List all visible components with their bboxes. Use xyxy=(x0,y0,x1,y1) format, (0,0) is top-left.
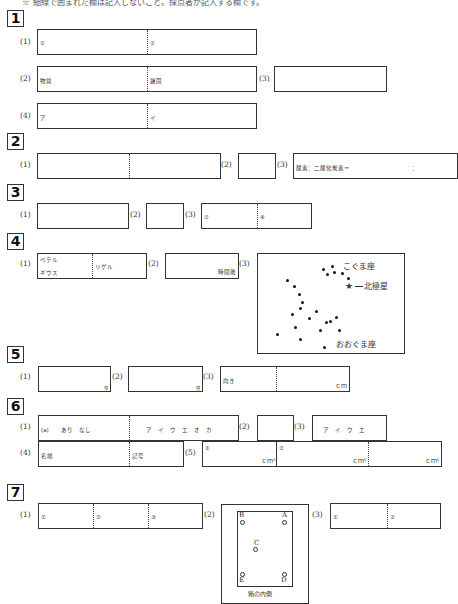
s2-q1-answer-box[interactable] xyxy=(37,153,221,179)
s6-q4-label: (4) xyxy=(20,448,31,457)
s1-q4-cell-2[interactable]: イ xyxy=(147,104,256,128)
little-dipper-label: こぐま座 xyxy=(343,260,375,271)
s6-q5-answer-box[interactable]: ① ｃｍ³ ② ｃｍ³ ｃｍ³ xyxy=(202,441,442,467)
point-b-marker[interactable] xyxy=(240,520,245,525)
s7-q1-answer-box[interactable]: ① ② ③ xyxy=(38,503,203,529)
s6-q1-cell-2[interactable]: ア イ ウ エ オ カ xyxy=(129,416,238,440)
star-dot xyxy=(299,307,302,310)
star-dot xyxy=(338,329,341,332)
s4-q2-hours-later-label: 時間後 xyxy=(218,268,236,276)
s2-q2-label: (2) xyxy=(221,160,232,169)
s7-q1-cell-3[interactable]: ③ xyxy=(148,504,202,528)
big-dipper-label: おおぐま座 xyxy=(336,338,376,349)
s6-q5-cell-2[interactable]: ② ｃｍ³ xyxy=(276,442,368,466)
s3-q3-label: (3) xyxy=(185,210,196,219)
point-c-marker[interactable] xyxy=(253,547,258,552)
section-3-badge: 3 xyxy=(7,184,24,201)
s4-q2-label: (2) xyxy=(148,259,159,268)
star-dot xyxy=(329,320,332,323)
point-a-marker[interactable] xyxy=(282,520,287,525)
s5-q1-answer-box[interactable]: g xyxy=(38,366,111,392)
s7-q1-cell-2[interactable]: ② xyxy=(93,504,148,528)
s2-q3-label: (3) xyxy=(277,160,288,169)
s7-q3-cell-2-label: ② xyxy=(390,514,395,520)
star-dot xyxy=(286,279,289,282)
s1-q2-cell-2[interactable]: 鎌固 xyxy=(147,67,256,91)
section-7-badge: 7 xyxy=(7,484,24,501)
s1-q3-answer-box[interactable] xyxy=(274,66,387,92)
s5-q2-answer-box[interactable]: g xyxy=(128,366,203,392)
s6-q5-cell-3[interactable]: ｃｍ³ xyxy=(368,442,441,466)
s5-q3-cell-distance[interactable]: ｃｍ xyxy=(276,367,349,391)
s3-q1-answer-box[interactable] xyxy=(37,203,129,229)
s6-q3-answer-box[interactable]: ア イ ウ エ xyxy=(312,415,387,441)
s7-q2-box-figure[interactable]: B A C E D 箱の内側 xyxy=(221,504,309,604)
point-a-label: A xyxy=(282,511,287,519)
star-dot xyxy=(341,272,344,275)
s2-q3-ratio-label: 酸素：二酸化炭素＝ xyxy=(296,164,350,172)
s4-q2-answer-box[interactable]: 時間後 xyxy=(165,253,239,279)
s4-q1-rigel-label: リゲル xyxy=(95,263,113,271)
s7-q3-cell-2[interactable]: ② xyxy=(387,504,440,528)
s1-q1-cell-2[interactable]: ② xyxy=(147,30,256,54)
s7-q3-cell-1-label: ① xyxy=(333,514,338,520)
box-inside-caption: 箱の内側 xyxy=(248,589,272,598)
s6-q4-cell-symbol[interactable]: 記号 xyxy=(129,442,183,466)
s2-q1-cell-2[interactable] xyxy=(129,154,220,178)
s6-q2-answer-box[interactable] xyxy=(257,415,294,441)
section-6-badge: 6 xyxy=(7,398,24,415)
s7-q1-cell-1-label: ① xyxy=(41,514,46,520)
star-dot xyxy=(335,316,338,319)
s6-q4-name-label: 名前 xyxy=(41,452,53,460)
s5-q1-label: (1) xyxy=(20,372,31,381)
s3-q3-cell-2-label: ④ xyxy=(260,214,265,220)
s6-q5-cell-1-unit: ｃｍ³ xyxy=(261,456,275,465)
s4-q1-answer-box[interactable]: ベテル ギウス リゲル xyxy=(37,253,147,279)
s5-q2-label: (2) xyxy=(112,372,123,381)
s1-q1-label: (1) xyxy=(20,37,31,46)
s1-q4-answer-box[interactable]: ア イ xyxy=(37,103,257,129)
s1-q2-answer-box[interactable]: 物質 鎌固 xyxy=(37,66,257,92)
s7-q3-label: (3) xyxy=(312,510,323,519)
s6-q5-cell-2-unit: ｃｍ³ xyxy=(352,456,366,465)
point-b-label: B xyxy=(239,511,244,519)
point-e-label: E xyxy=(239,576,244,584)
s6-q5-cell-1-label: ① xyxy=(205,445,210,451)
s4-q1-label: (1) xyxy=(20,259,31,268)
star-dot xyxy=(298,293,301,296)
s4-q1-betelgeuse-line1: ベテル xyxy=(40,256,58,264)
star-dot xyxy=(301,301,304,304)
s3-q2-label: (2) xyxy=(130,210,141,219)
star-dot xyxy=(325,321,328,324)
s7-q3-answer-box[interactable]: ① ② xyxy=(330,503,441,529)
s6-q4-answer-box[interactable]: 名前 記号 xyxy=(38,441,184,467)
s1-q4-label: (4) xyxy=(20,111,31,120)
s2-q2-answer-box[interactable] xyxy=(238,153,276,179)
s4-q1-cell-rigel[interactable]: リゲル xyxy=(92,254,146,278)
star-dot xyxy=(322,268,325,271)
star-dot xyxy=(294,326,297,329)
s6-q1-choice-options: ア イ ウ エ オ カ xyxy=(146,426,212,434)
s5-q3-answer-box[interactable]: 向き ｃｍ xyxy=(220,366,350,392)
s4-q3-star-map[interactable]: こぐま座 ★ 北極星 おおぐま座 xyxy=(257,253,405,354)
s3-q2-answer-box[interactable] xyxy=(146,203,184,229)
star-dot xyxy=(333,271,336,274)
section-4-badge: 4 xyxy=(7,233,24,250)
star-dot xyxy=(293,285,296,288)
star-dot xyxy=(276,333,279,336)
s3-q3-answer-box[interactable]: ② ④ xyxy=(201,203,312,229)
s6-q1-answer-box[interactable]: (a) あり なし ア イ ウ エ オ カ xyxy=(38,415,239,441)
s5-q3-label: (3) xyxy=(203,372,214,381)
star-dot xyxy=(291,313,294,316)
s1-q1-answer-box[interactable]: ① ② xyxy=(37,29,257,55)
s1-q1-cell-2-label: ② xyxy=(150,40,155,46)
s1-q2-cell-2-label: 鎌固 xyxy=(150,77,162,85)
s6-q1-a-options: (a) あり なし xyxy=(41,426,91,434)
s4-q3-label: (3) xyxy=(239,259,250,268)
s3-q3-cell-1-label: ② xyxy=(204,214,209,220)
header-note: ※ 細線で囲まれた欄は記入しないこと。採点者が記入する欄です。 xyxy=(22,0,264,7)
s2-q3-answer-box[interactable]: 酸素：二酸化炭素＝ ： xyxy=(293,153,458,179)
star-dot xyxy=(315,310,318,313)
s3-q3-cell-2[interactable]: ④ xyxy=(257,204,311,228)
s5-q2-unit: g xyxy=(196,383,200,390)
